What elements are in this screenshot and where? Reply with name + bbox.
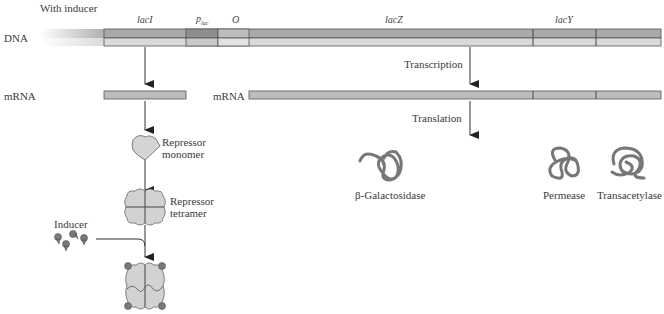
beta-galactosidase-label: β-Galactosidase	[355, 190, 425, 201]
inactive-repressor-icon	[125, 263, 166, 310]
dna-fade	[40, 29, 104, 46]
gene-label-lacI: lacI	[137, 15, 153, 25]
dna-double-strand	[104, 29, 661, 46]
permease-icon	[550, 148, 579, 178]
mrna-label-right: mRNA	[213, 91, 245, 102]
repressor-tetramer-label-1: Repressor	[170, 196, 214, 207]
translation-label: Translation	[412, 113, 462, 124]
diagram-title: With inducer	[40, 3, 97, 14]
permease-label: Permease	[543, 190, 585, 201]
gene-label-lacZ: lacZ	[385, 15, 403, 25]
repressor-tetramer-icon	[125, 189, 166, 225]
lac-mrna-bar	[249, 91, 661, 99]
transcription-label: Transcription	[404, 59, 463, 70]
gene-label-O: O	[232, 15, 239, 25]
gene-label-plac: plac	[196, 14, 208, 26]
repressor-tetramer-label-2: tetramer	[170, 208, 207, 219]
inducer-label: Inducer	[54, 219, 88, 230]
transacetylase-icon	[612, 148, 644, 178]
repressor-monomer-label-1: Repressor	[162, 137, 206, 148]
transacetylase-label: Transacetylase	[597, 190, 662, 201]
lac-operon-diagram	[0, 0, 664, 314]
lacI-mrna-bar	[104, 91, 186, 99]
mrna-label-left: mRNA	[4, 91, 36, 102]
repressor-monomer-icon	[132, 136, 160, 160]
beta-galactosidase-icon	[360, 152, 401, 180]
inducer-path-line	[96, 239, 145, 246]
inducer-molecules-icon	[55, 231, 88, 252]
promoter-subscript: lac	[201, 20, 208, 26]
repressor-monomer-label-2: monomer	[162, 149, 204, 160]
dna-label: DNA	[4, 33, 28, 44]
gene-label-lacY: lacY	[555, 15, 573, 25]
